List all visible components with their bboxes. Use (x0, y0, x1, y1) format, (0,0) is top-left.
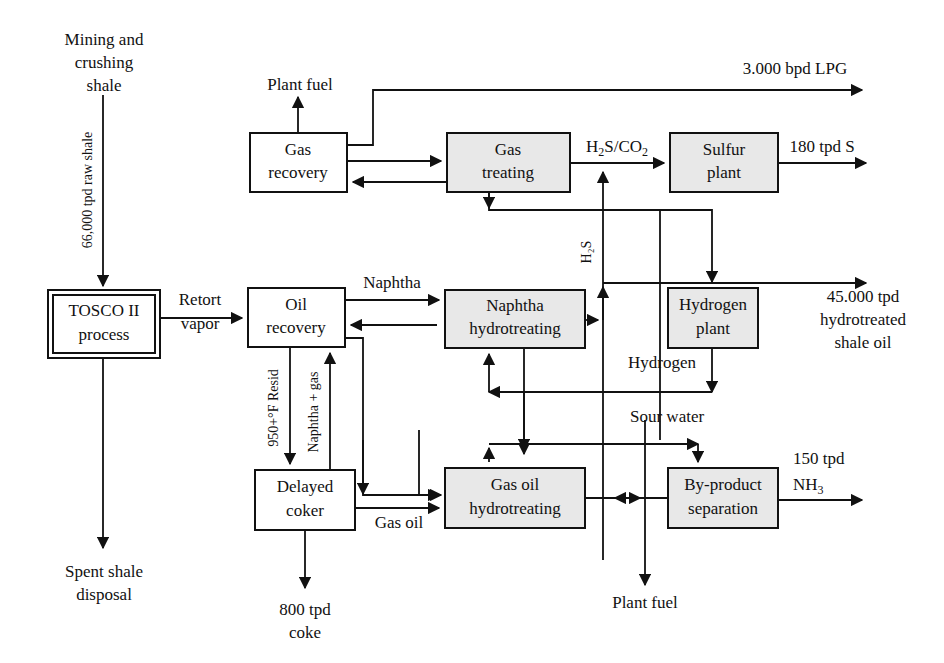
label-mining-line3: shale (87, 76, 122, 95)
box-naphtha-hydrotreating[interactable]: Naphtha hydrotreating (445, 290, 585, 348)
label-coke-line2: coke (289, 623, 321, 642)
box-byproduct-separation-label-2: separation (688, 499, 758, 518)
box-gas-recovery[interactable]: Gas recovery (250, 133, 347, 192)
conn-gas-treating-to-hydrogen-plant (489, 192, 712, 282)
box-byproduct-separation-label-1: By-product (684, 475, 762, 494)
label-hydrogen: Hydrogen (628, 353, 696, 372)
box-hydrogen-plant-label-2: plant (696, 319, 730, 338)
label-nh3-line2: NH3 (793, 475, 824, 497)
box-gas-oil-hydrotreating-label-1: Gas oil (491, 475, 540, 494)
box-gas-treating-label-1: Gas (495, 140, 521, 159)
box-gas-recovery-label-1: Gas (285, 140, 311, 159)
label-nh3-line1: 150 tpd (793, 449, 845, 468)
box-tosco-label-1: TOSCO II (69, 301, 140, 320)
box-delayed-coker-label-1: Delayed (277, 477, 334, 496)
box-hydrogen-plant[interactable]: Hydrogen plant (668, 288, 758, 348)
label-spent-shale-line2: disposal (76, 585, 132, 604)
label-raw-shale-feed: 66,000 tpd raw shale (80, 132, 95, 249)
label-naphtha: Naphtha (363, 273, 421, 292)
label-coke-line1: 800 tpd (279, 600, 331, 619)
label-gas-oil: Gas oil (375, 513, 424, 532)
box-gas-treating[interactable]: Gas treating (447, 133, 570, 192)
box-byproduct-separation[interactable]: By-product separation (668, 468, 778, 528)
box-delayed-coker-label-2: coker (286, 501, 324, 520)
label-plant-fuel-top: Plant fuel (267, 75, 333, 94)
conn-oil-recovery-side-down (345, 338, 439, 495)
box-gas-recovery-label-2: recovery (268, 163, 328, 182)
box-naphtha-hydrotreating-label-1: Naphtha (486, 296, 544, 315)
label-plant-fuel-bottom: Plant fuel (612, 593, 678, 612)
flow-diagram-canvas: TOSCO II process Oil recovery Gas recove… (0, 0, 944, 663)
label-h2s-co2: H2S/CO2 (586, 137, 648, 159)
label-spent-shale-line1: Spent shale (65, 562, 143, 581)
label-shale-oil-line3: shale oil (834, 333, 891, 352)
label-mining-line2: crushing (75, 53, 134, 72)
box-tosco-ii-process[interactable]: TOSCO II process (48, 290, 160, 358)
label-naphtha-gas: Naphtha + gas (306, 372, 321, 453)
box-tosco-label-2: process (79, 325, 130, 344)
label-h2s-vertical: H₂S (579, 241, 594, 264)
box-oil-recovery-label-2: recovery (266, 318, 326, 337)
box-gas-oil-hydrotreating-label-2: hydrotreating (469, 499, 561, 518)
box-oil-recovery[interactable]: Oil recovery (248, 288, 345, 347)
label-resid: 950+°F Resid (266, 369, 281, 447)
box-naphtha-hydrotreating-label-2: hydrotreating (469, 319, 561, 338)
process-flow-diagram: TOSCO II process Oil recovery Gas recove… (0, 0, 944, 663)
box-gas-oil-hydrotreating[interactable]: Gas oil hydrotreating (445, 468, 585, 528)
box-sulfur-plant[interactable]: Sulfur plant (670, 133, 778, 192)
label-lpg-product: 3.000 bpd LPG (743, 59, 847, 78)
label-retort-line1: Retort (179, 290, 222, 309)
box-sulfur-plant-label-2: plant (707, 163, 741, 182)
label-retort-line2: vapor (181, 314, 220, 333)
label-sour-water: Sour water (630, 407, 704, 426)
conn-gasoil-left-feeder (419, 430, 441, 495)
box-sulfur-plant-label-1: Sulfur (703, 140, 746, 159)
box-gas-treating-label-2: treating (482, 163, 534, 182)
box-oil-recovery-label-1: Oil (285, 295, 307, 314)
label-sulfur-product: 180 tpd S (789, 137, 854, 156)
box-hydrogen-plant-label-1: Hydrogen (679, 295, 747, 314)
label-mining-line1: Mining and (65, 30, 144, 49)
box-delayed-coker[interactable]: Delayed coker (255, 470, 355, 530)
label-shale-oil-line2: hydrotreated (820, 310, 906, 329)
label-shale-oil-line1: 45.000 tpd (827, 287, 900, 306)
